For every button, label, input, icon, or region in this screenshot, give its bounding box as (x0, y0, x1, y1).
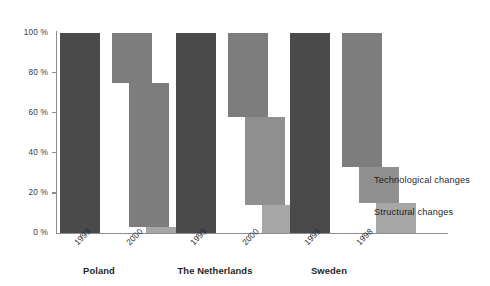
y-axis-tick (52, 72, 56, 73)
legend-label-technological: Technological changes (374, 175, 470, 185)
bar-segment (176, 33, 216, 234)
bar-segment (290, 33, 330, 234)
y-axis-label: 40 % (14, 148, 48, 157)
y-axis-line (56, 31, 57, 234)
bar-segment (342, 33, 382, 167)
bar-segment (129, 83, 169, 227)
bar-chart: 100 %80 %60 %40 %20 %0 % 199320001993200… (0, 0, 490, 286)
y-axis-tick (52, 112, 56, 113)
group-label: Sweden (259, 265, 399, 276)
y-axis-tick (52, 192, 56, 193)
y-axis-label: 60 % (14, 108, 48, 117)
y-axis-label: 100 % (14, 28, 48, 37)
y-axis-label: 80 % (14, 68, 48, 77)
y-axis-label: 0 % (14, 228, 48, 237)
legend-label-structural: Structural changes (374, 207, 453, 217)
bar-segment (60, 33, 100, 234)
y-axis-label: 20 % (14, 188, 48, 197)
x-axis-year-label: 1998 (354, 226, 375, 247)
y-axis-tick (52, 152, 56, 153)
bar-segment (245, 117, 285, 205)
x-axis-year-label: 2000 (240, 226, 261, 247)
bar-segment (228, 33, 268, 117)
x-axis-year-label: 2000 (124, 226, 145, 247)
bar-segment (112, 33, 152, 83)
